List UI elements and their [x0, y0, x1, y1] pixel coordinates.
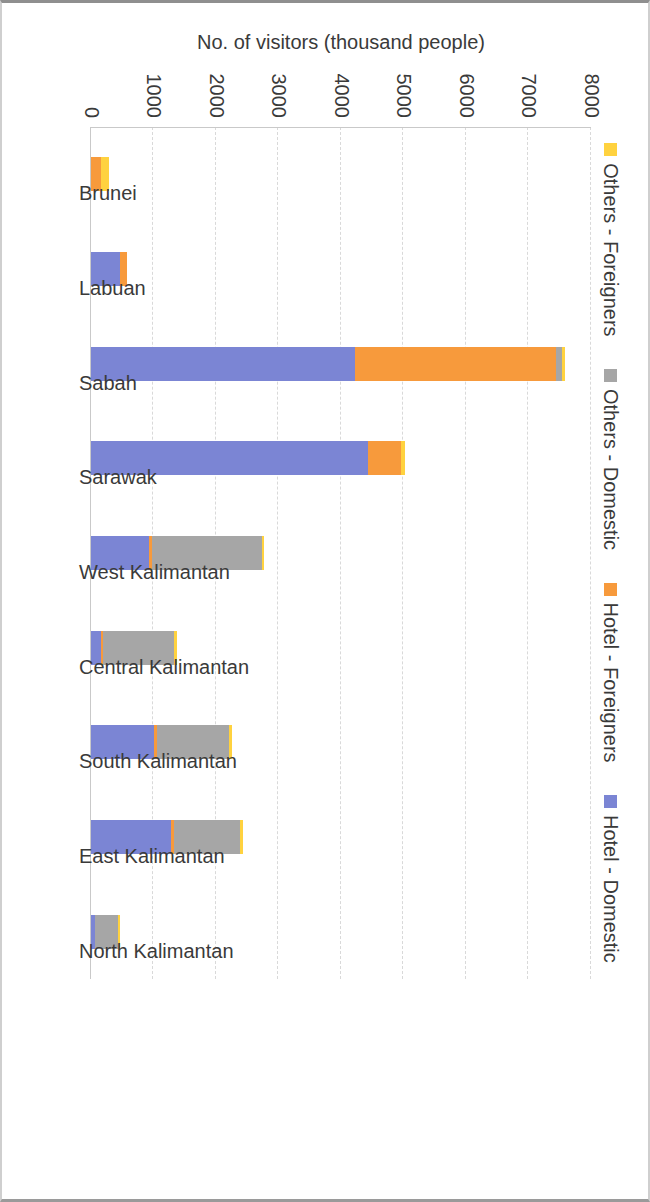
x-tick-label: Sarawak	[79, 466, 157, 489]
legend-item-1[interactable]: Hotel - Foreigners	[600, 583, 623, 763]
x-tick-label: Brunei	[79, 182, 137, 205]
x-tick-label: West Kalimantan	[79, 561, 230, 584]
y-tick-label: 1000	[142, 74, 165, 128]
legend-label: Hotel - Foreigners	[600, 603, 623, 763]
y-tick-label: 8000	[580, 74, 603, 128]
y-tick-label: 3000	[267, 74, 290, 128]
bar-segment	[401, 441, 405, 475]
legend-swatch-icon	[605, 795, 618, 808]
x-tick-label: Sabah	[79, 372, 137, 395]
gridline	[528, 127, 529, 979]
y-tick-label: 7000	[517, 74, 540, 128]
gridline	[590, 127, 591, 979]
y-axis-line	[91, 127, 591, 128]
x-tick-label: Labuan	[79, 277, 146, 300]
legend-label: Others - Foreigners	[600, 163, 623, 336]
gridline	[403, 127, 404, 979]
y-tick-label: 4000	[330, 74, 353, 128]
gridline	[465, 127, 466, 979]
gridline	[278, 127, 279, 979]
chart-page: No. of visitors (thousand people) 010002…	[0, 0, 650, 1202]
gridline	[340, 127, 341, 979]
bar-segment	[262, 536, 264, 570]
y-tick-label: 0	[80, 107, 103, 127]
bar-sabah[interactable]	[91, 347, 565, 381]
x-tick-label: East Kalimantan	[79, 845, 225, 868]
y-tick-label: 5000	[392, 74, 415, 128]
bar-segment	[355, 347, 556, 381]
y-tick-label: 6000	[455, 74, 478, 128]
y-axis-title: No. of visitors (thousand people)	[91, 31, 591, 65]
legend-item-3[interactable]: Others - Foreigners	[600, 143, 623, 336]
legend-swatch-icon	[605, 143, 618, 156]
bar-segment	[240, 820, 242, 854]
legend-swatch-icon	[605, 369, 618, 382]
x-axis-labels: BruneiLabuanSabahSarawakWest KalimantanC…	[25, 127, 85, 979]
legend-item-0[interactable]: Hotel - Domestic	[600, 795, 623, 963]
bar-segment	[556, 347, 562, 381]
legend-swatch-icon	[605, 583, 618, 596]
legend-label: Hotel - Domestic	[600, 815, 623, 963]
x-tick-label: Central Kalimantan	[79, 656, 249, 679]
chart-legend: Hotel - DomesticHotel - ForeignersOthers…	[597, 127, 625, 979]
rotated-chart-stage: No. of visitors (thousand people) 010002…	[25, 31, 625, 1171]
chart-figure: No. of visitors (thousand people) 010002…	[25, 31, 625, 1171]
legend-label: Others - Domestic	[600, 389, 623, 550]
legend-item-2[interactable]: Others - Domestic	[600, 369, 623, 550]
x-tick-label: South Kalimantan	[79, 750, 237, 773]
bar-segment	[562, 347, 565, 381]
x-tick-label: North Kalimantan	[79, 940, 234, 963]
y-tick-label: 2000	[205, 74, 228, 128]
bar-segment	[368, 441, 401, 475]
